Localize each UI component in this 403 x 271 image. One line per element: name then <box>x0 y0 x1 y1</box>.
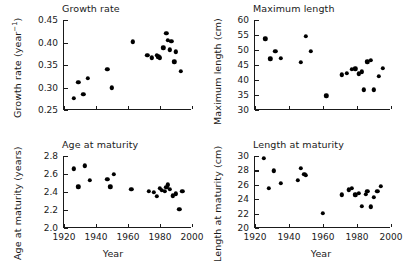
x-tick-label: 1980 <box>346 232 369 242</box>
x-tick <box>255 224 256 228</box>
y-tick-label: 2.4 <box>28 187 58 197</box>
data-point <box>295 178 299 182</box>
y-tick-label: 0.40 <box>28 38 58 48</box>
data-point <box>278 181 282 185</box>
x-tick <box>289 224 290 228</box>
y-tick <box>64 43 68 44</box>
data-point <box>263 36 267 40</box>
data-point <box>324 94 328 98</box>
panel-length-at-maturity: Length at maturity Length at maturity (c… <box>201 136 402 271</box>
y-tick <box>255 110 259 111</box>
data-point <box>174 192 178 196</box>
data-point <box>81 92 85 96</box>
y-tick <box>64 210 68 211</box>
x-tick <box>357 224 358 228</box>
y-tick-label: 50 <box>219 45 249 55</box>
data-point <box>380 66 384 70</box>
data-point <box>299 60 303 64</box>
panel-title: Maximum length <box>253 3 335 14</box>
plot-area: 30354045505560 <box>254 20 390 110</box>
y-tick-label: 26 <box>219 180 249 190</box>
y-tick-label: 40 <box>219 75 249 85</box>
data-point <box>268 56 272 60</box>
y-tick-label: 0.45 <box>28 15 58 25</box>
data-point <box>353 66 357 70</box>
x-tick <box>357 106 358 110</box>
y-tick <box>255 80 259 81</box>
y-tick <box>255 228 259 229</box>
data-point <box>321 211 325 215</box>
y-tick-label: 0.35 <box>28 60 58 70</box>
data-point <box>76 80 80 84</box>
data-point <box>368 205 372 209</box>
data-point <box>350 186 354 190</box>
x-tick <box>64 224 65 228</box>
y-tick-label: 55 <box>219 30 249 40</box>
data-point <box>87 178 91 182</box>
y-tick <box>64 88 68 89</box>
y-tick-label: 28 <box>219 165 249 175</box>
data-point <box>167 47 171 51</box>
y-tick-label: 0.30 <box>28 83 58 93</box>
y-tick-label: 60 <box>219 15 249 25</box>
data-point <box>155 194 159 198</box>
y-tick <box>64 192 68 193</box>
y-axis-label: Age at maturity (years) <box>12 146 23 260</box>
y-tick-label: 35 <box>219 90 249 100</box>
x-tick-label: 1920 <box>53 232 76 242</box>
data-point <box>169 39 173 43</box>
data-point <box>164 31 168 35</box>
data-point <box>129 187 133 191</box>
y-tick-label: 24 <box>219 194 249 204</box>
data-point <box>131 39 135 43</box>
data-point <box>158 56 162 60</box>
y-tick <box>255 50 259 51</box>
data-point <box>368 58 372 62</box>
data-point <box>177 207 181 211</box>
x-tick-label: 1940 <box>278 232 301 242</box>
x-axis-label: Year <box>103 248 124 259</box>
y-tick-label: 45 <box>219 60 249 70</box>
x-tick <box>289 106 290 110</box>
data-point <box>71 96 75 100</box>
data-point <box>105 177 109 181</box>
data-point <box>309 49 313 53</box>
data-point <box>372 195 376 199</box>
data-point <box>372 87 376 91</box>
data-point <box>172 60 176 64</box>
data-point <box>108 184 112 188</box>
data-point <box>86 76 90 80</box>
data-point <box>266 186 270 190</box>
y-tick <box>64 110 68 111</box>
y-tick <box>64 174 68 175</box>
y-tick-label: 2.2 <box>28 205 58 215</box>
data-point <box>145 53 149 57</box>
data-point <box>339 72 343 76</box>
panel-growth-rate: Growth rate Growth rate (year−1) 0.250.3… <box>0 0 201 135</box>
data-point <box>147 189 151 193</box>
data-point <box>356 191 360 195</box>
data-point <box>105 67 109 71</box>
y-tick-label: 30 <box>219 151 249 161</box>
y-tick <box>255 95 259 96</box>
x-tick-label: 1980 <box>149 232 172 242</box>
data-point <box>179 69 183 73</box>
y-tick <box>64 228 68 229</box>
x-tick <box>96 106 97 110</box>
panel-age-at-maturity: Age at maturity Age at maturity (years) … <box>0 136 201 271</box>
y-tick <box>255 170 259 171</box>
panel-title: Age at maturity <box>62 139 138 150</box>
plot-area: 20222426283019201940196019802000 <box>254 156 390 228</box>
multi-panel-scatter-figure: Growth rate Growth rate (year−1) 0.250.3… <box>0 0 403 271</box>
y-tick <box>255 156 259 157</box>
x-axis-label: Year <box>311 248 332 259</box>
y-tick-label: 22 <box>219 209 249 219</box>
data-point <box>360 70 364 74</box>
y-tick <box>255 214 259 215</box>
x-tick-label: 1940 <box>85 232 108 242</box>
x-tick <box>192 106 193 110</box>
y-tick <box>255 65 259 66</box>
panel-title: Length at maturity <box>253 139 344 150</box>
data-point <box>180 189 184 193</box>
x-tick <box>128 106 129 110</box>
